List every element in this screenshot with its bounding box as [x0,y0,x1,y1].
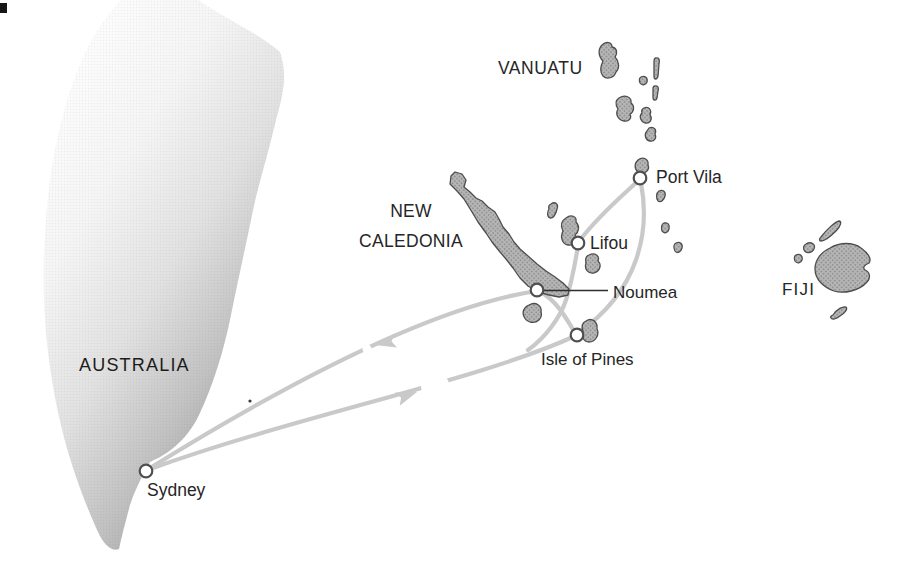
island [654,58,659,79]
route-port-vila-lifou [580,180,639,240]
label-fiji: FIJI [782,280,815,299]
speck-artifact [248,399,251,402]
isle-of-pines-island [582,320,598,342]
route-gap [363,345,372,354]
island [674,242,682,252]
island [657,190,666,201]
label-isle-of-pines: Isle of Pines [541,350,634,369]
route-noumea-isle-of-pines [538,291,575,333]
cruise-route-map: VANUATU NEW CALEDONIA Port Vila Lifou No… [0,0,916,587]
label-new-caledonia-line1: NEW [390,201,432,221]
map-canvas: VANUATU NEW CALEDONIA Port Vila Lifou No… [0,0,916,587]
label-vanuatu: VANUATU [498,58,583,78]
island [831,307,847,319]
port-marker-sydney [140,465,153,478]
island [640,107,651,123]
island [548,203,558,218]
label-lifou: Lifou [590,233,628,253]
route-gap [421,372,449,400]
landmass-australia-texture [44,0,284,550]
island [450,172,569,297]
label-sydney: Sydney [147,480,206,500]
island [599,43,618,79]
new-caledonia-island [450,172,569,297]
label-new-caledonia-line2: CALEDONIA [359,231,463,251]
vanuatu-islands [599,43,682,253]
island [820,221,841,241]
label-noumea: Noumea [613,283,678,302]
fiji-islands [794,221,870,319]
port-marker-noumea [531,284,544,297]
arrow-northeast-icon [395,392,417,406]
island [804,243,815,253]
island [815,244,870,293]
island [616,96,633,121]
label-australia: AUSTRALIA [79,355,190,375]
island [585,254,600,273]
print-artifact [0,3,7,13]
port-marker-lifou [572,237,585,250]
island [662,223,670,233]
islet [523,304,541,323]
port-marker-port-vila [634,172,647,185]
island [653,86,658,100]
island [794,254,802,262]
port-marker-isle-of-pines [571,329,584,342]
label-port-vila: Port Vila [656,167,722,187]
island [639,76,647,84]
island [645,127,655,141]
